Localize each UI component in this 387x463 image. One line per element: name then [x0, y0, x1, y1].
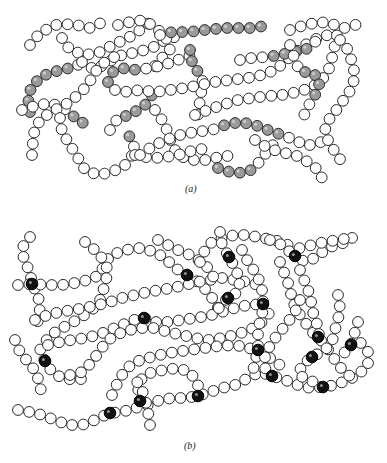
chain-bead: [299, 275, 310, 286]
chain-bead: [178, 346, 189, 357]
chain-bead: [208, 386, 219, 397]
chain-bead: [115, 328, 126, 339]
chain-bead: [167, 363, 178, 374]
bead-highlight: [292, 253, 295, 256]
chain-bead: [172, 281, 183, 292]
chain-bead: [51, 308, 62, 319]
chain-bead: [295, 295, 306, 306]
chain-bead: [227, 230, 238, 241]
crosslink-bead: [223, 251, 235, 263]
chain-bead: [58, 279, 69, 290]
chain-bead: [237, 245, 248, 256]
chain-bead: [215, 227, 226, 238]
chain-bead: [173, 315, 184, 326]
chain-bead: [28, 363, 39, 374]
chain-bead: [207, 293, 218, 304]
chain-bead: [254, 318, 265, 329]
chain-bead: [295, 265, 306, 276]
bead-highlight: [137, 398, 140, 401]
chain-bead: [257, 285, 268, 296]
chain-bead: [329, 354, 340, 365]
chain-bead: [230, 380, 241, 391]
chain-bead: [134, 355, 145, 366]
chain-bead: [111, 379, 122, 390]
chain-bead: [80, 275, 91, 286]
chain-bead: [40, 311, 51, 322]
polymer-chain-figure: (a) (b): [0, 0, 387, 463]
chain-bead: [13, 280, 24, 291]
chain-bead: [67, 420, 78, 431]
chain-bead: [240, 374, 251, 385]
chain-bead: [336, 363, 347, 374]
chain-bead: [333, 290, 344, 301]
chain-bead: [282, 375, 293, 386]
panel-b-crosslinked-network: [0, 0, 387, 463]
chain-bead: [187, 370, 198, 381]
chain-bead: [106, 296, 117, 307]
chain-bead: [184, 313, 195, 324]
chain-bead: [134, 243, 145, 254]
chain-bead: [45, 413, 56, 424]
chain-bead: [239, 300, 250, 311]
chain-bead: [161, 284, 172, 295]
chain-bead: [308, 253, 319, 264]
chain-bead: [334, 301, 345, 312]
chain-bead: [65, 370, 76, 381]
chain-bead: [132, 377, 143, 388]
chain-bead: [59, 321, 70, 332]
chain-bead: [84, 302, 95, 313]
chain-bead: [145, 245, 156, 256]
chain-bead: [144, 352, 155, 363]
bead-highlight: [348, 342, 351, 345]
chain-bead: [349, 327, 360, 338]
chain-bead: [54, 337, 65, 348]
chain-bead: [78, 419, 89, 430]
chain-bead: [242, 255, 253, 266]
chain-bead: [208, 271, 219, 282]
chain-bead: [10, 335, 21, 346]
chain-bead: [277, 323, 288, 334]
chain-bead: [148, 323, 159, 334]
chain-bead: [265, 235, 276, 246]
bead-highlight: [184, 272, 187, 275]
chain-bead: [22, 262, 33, 273]
chain-bead: [264, 342, 275, 353]
crosslink-bead: [289, 250, 301, 262]
chain-bead: [253, 329, 264, 340]
chain-bead: [76, 333, 87, 344]
chain-bead: [211, 341, 222, 352]
crosslink-bead: [312, 331, 324, 343]
chain-bead: [18, 252, 29, 263]
chain-bead: [228, 303, 239, 314]
chain-bead: [275, 257, 286, 268]
chain-bead: [30, 315, 41, 326]
chain-bead: [54, 371, 65, 382]
chain-bead: [117, 293, 128, 304]
chain-bead: [25, 232, 36, 243]
chain-bead: [321, 343, 332, 354]
chain-bead: [35, 409, 46, 420]
bead-highlight: [226, 254, 229, 257]
chain-bead: [73, 304, 84, 315]
crosslink-bead: [181, 269, 193, 281]
chain-bead: [56, 417, 67, 428]
chain-bead: [87, 331, 98, 342]
chain-bead: [43, 340, 54, 351]
chain-bead: [137, 323, 148, 334]
chain-bead: [139, 287, 150, 298]
chain-bead: [238, 230, 249, 241]
crosslink-bead: [317, 381, 329, 393]
chain-bead: [153, 235, 164, 246]
chain-bead: [143, 408, 154, 419]
chain-bead: [236, 327, 247, 338]
chain-bead: [353, 317, 364, 328]
chain-bead: [297, 371, 308, 382]
chain-bead: [270, 332, 281, 343]
crosslink-bead: [266, 370, 278, 382]
chain-bead: [305, 240, 316, 251]
chain-bead: [181, 331, 192, 342]
chain-bead: [200, 343, 211, 354]
chain-bead: [18, 241, 29, 252]
chain-bead: [88, 244, 99, 255]
chain-bead: [112, 248, 123, 259]
